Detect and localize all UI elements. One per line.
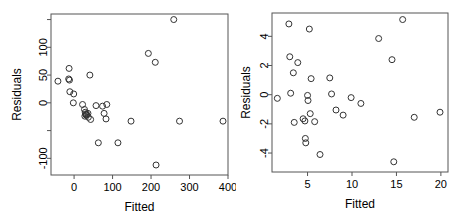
y-tick-label: 4 bbox=[258, 33, 270, 39]
y-tick-label: 0 bbox=[37, 100, 49, 106]
x-tick-label: 15 bbox=[390, 178, 402, 190]
y-tick-label: -4 bbox=[258, 148, 270, 158]
data-point bbox=[103, 116, 109, 122]
data-point bbox=[288, 90, 294, 96]
data-point bbox=[93, 103, 99, 109]
data-point bbox=[437, 109, 443, 115]
data-point bbox=[128, 118, 134, 124]
data-point bbox=[317, 152, 323, 158]
x-tick-label: 20 bbox=[435, 178, 447, 190]
data-point bbox=[220, 118, 226, 124]
x-tick-label: 300 bbox=[180, 181, 198, 193]
data-point bbox=[333, 107, 339, 113]
x-axis-title: Fitted bbox=[124, 200, 154, 214]
data-point bbox=[295, 60, 301, 66]
y-axis-title: Residuals bbox=[239, 66, 253, 119]
x-tick-label: 200 bbox=[142, 181, 160, 193]
data-point bbox=[274, 95, 280, 101]
data-point bbox=[291, 119, 297, 125]
data-point bbox=[389, 57, 395, 63]
data-point bbox=[376, 36, 382, 42]
data-point bbox=[411, 114, 417, 120]
data-point bbox=[87, 72, 93, 78]
residual-plots-figure: 0100200300400-100050100FittedResiduals 5… bbox=[0, 0, 471, 220]
y-axis-title: Residuals bbox=[10, 68, 24, 121]
data-point bbox=[340, 112, 346, 118]
x-tick-label: 400 bbox=[219, 181, 236, 193]
plot-frame bbox=[272, 13, 448, 172]
data-point bbox=[307, 111, 313, 117]
data-point bbox=[290, 70, 296, 76]
data-point bbox=[303, 140, 309, 146]
data-point bbox=[329, 91, 335, 97]
y-tick-label: 50 bbox=[37, 69, 49, 81]
data-point bbox=[286, 21, 292, 27]
data-point bbox=[327, 75, 333, 81]
data-point bbox=[177, 118, 183, 124]
data-point bbox=[55, 78, 61, 84]
plot-frame bbox=[51, 14, 228, 175]
data-point bbox=[115, 140, 121, 146]
scatter-panel-right: 5101520-4-2024FittedResiduals bbox=[236, 0, 471, 220]
scatter-panel-left: 0100200300400-100050100FittedResiduals bbox=[0, 0, 236, 220]
x-tick-label: 10 bbox=[346, 178, 358, 190]
data-point bbox=[391, 159, 397, 165]
x-tick-label: 100 bbox=[103, 181, 121, 193]
x-tick-label: 0 bbox=[71, 181, 77, 193]
y-tick-label: 100 bbox=[37, 38, 49, 56]
data-point bbox=[95, 140, 101, 146]
data-point bbox=[312, 119, 318, 125]
data-point bbox=[306, 26, 312, 32]
y-tick-label: -100 bbox=[37, 147, 49, 169]
x-axis-title: Fitted bbox=[345, 197, 375, 211]
data-point bbox=[152, 59, 158, 65]
data-point bbox=[358, 100, 364, 106]
data-point bbox=[153, 162, 159, 168]
data-point bbox=[145, 50, 151, 56]
data-points-group bbox=[274, 17, 443, 165]
x-tick-label: 5 bbox=[304, 178, 310, 190]
right-plot-canvas: 5101520-4-2024FittedResiduals bbox=[236, 0, 471, 220]
y-tick-label: -2 bbox=[258, 119, 270, 129]
data-point bbox=[308, 76, 314, 82]
data-point bbox=[400, 17, 406, 23]
data-point bbox=[348, 95, 354, 101]
y-tick-label: 0 bbox=[258, 92, 270, 98]
data-points-group bbox=[55, 17, 226, 168]
data-point bbox=[70, 100, 76, 106]
data-point bbox=[66, 65, 72, 71]
left-plot-canvas: 0100200300400-100050100FittedResiduals bbox=[0, 0, 236, 220]
data-point bbox=[287, 54, 293, 60]
data-point bbox=[171, 17, 177, 23]
y-tick-label: 2 bbox=[258, 62, 270, 68]
